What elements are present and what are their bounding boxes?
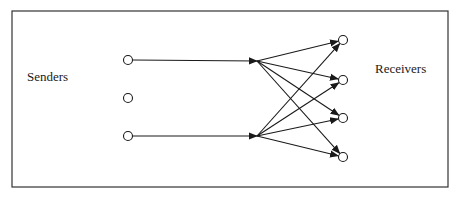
receivers-label: Receivers <box>375 62 426 75</box>
sender-node <box>124 132 133 141</box>
receiver-node <box>339 114 348 123</box>
hub-to-receiver-arrow <box>257 61 338 79</box>
hub-to-receiver-arrow <box>257 41 338 61</box>
receiver-node <box>339 153 348 162</box>
hub-to-receiver-arrow <box>257 136 338 156</box>
receiver-node <box>339 36 348 45</box>
diagram-frame <box>12 11 448 187</box>
diagram-canvas <box>0 0 462 198</box>
edges-layer <box>133 41 340 156</box>
sender-node <box>124 94 133 103</box>
multicast-diagram: Senders Receivers <box>0 0 462 198</box>
sender-node <box>124 56 133 65</box>
sender-to-hub-arrow <box>133 60 258 61</box>
senders-label: Senders <box>27 70 68 83</box>
receiver-node <box>339 76 348 85</box>
